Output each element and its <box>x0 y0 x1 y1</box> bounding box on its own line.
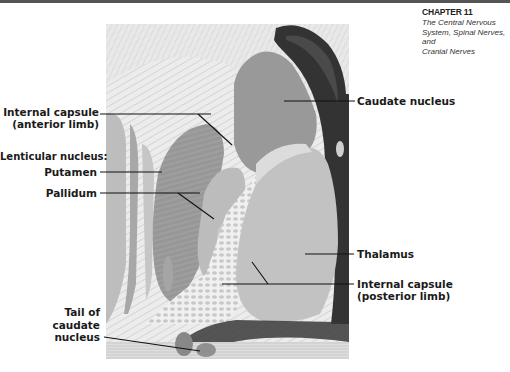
label-thalamus: Thalamus <box>357 248 414 260</box>
label-internal-capsule-anterior: Internal capsule (anterior limb) <box>0 106 99 130</box>
label-pallidum: Pallidum <box>0 187 97 199</box>
label-internal-capsule-posterior: Internal capsule (posterior limb) <box>357 278 453 302</box>
label-lenticular-nucleus: Lenticular nucleus: <box>0 151 99 163</box>
label-tail-of-caudate-nucleus: Tail of caudate nucleus <box>0 306 100 344</box>
label-caudate-nucleus: Caudate nucleus <box>357 95 455 107</box>
label-putamen: Putamen <box>0 166 97 178</box>
